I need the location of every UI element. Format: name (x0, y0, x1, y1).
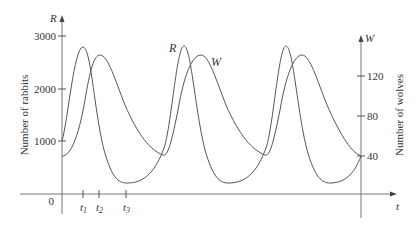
right-axis-var: W (365, 32, 375, 44)
wolf-curve (62, 55, 361, 156)
tick-label-3000: 3000 (34, 30, 57, 42)
right-axis-title: Number of wolves (393, 74, 405, 156)
right-axis-arrow-icon (359, 35, 364, 42)
tick-label-1000: 1000 (34, 135, 57, 147)
tick-label-80: 80 (367, 110, 379, 122)
left-axis-arrow-icon (60, 15, 65, 22)
tick-label-t1: t1 (80, 201, 87, 215)
left-axis-var: R (49, 12, 57, 24)
x-axis-label: t (396, 200, 400, 212)
origin-label: 0 (49, 195, 55, 207)
left-axis-title: Number of rabbits (18, 75, 30, 156)
curve-label-w: W (211, 55, 222, 69)
tick-label-40: 40 (367, 150, 379, 162)
tick-label-2000: 2000 (34, 83, 57, 95)
curve-label-r: R (168, 41, 177, 55)
tick-label-120: 120 (367, 70, 384, 82)
predator-prey-chart: t R 3000 2000 1000 0 Number of rabbits W… (0, 0, 416, 229)
x-axis-arrow-icon (390, 192, 397, 197)
tick-label-t2: t2 (96, 201, 103, 215)
tick-label-t3: t3 (123, 201, 130, 215)
